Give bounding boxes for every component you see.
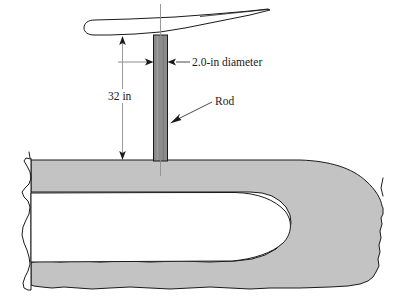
- break-stub-right: [381, 178, 383, 196]
- diagram-canvas: 2.0-in diameter 32 in Rod: [0, 0, 409, 304]
- diameter-arrow-right: [168, 59, 177, 66]
- length-callout: 32 in: [106, 36, 139, 160]
- rod-leader-arrow: [170, 114, 182, 124]
- diameter-label: 2.0-in diameter: [192, 56, 262, 68]
- duct-wall-cutaway: [22, 152, 383, 290]
- rod-callout: Rod: [170, 95, 234, 124]
- vane-outline: [84, 9, 270, 35]
- technical-diagram-figure: 2.0-in diameter 32 in Rod: [0, 0, 409, 304]
- vane-airfoil: [84, 9, 270, 35]
- rod-label: Rod: [215, 95, 234, 107]
- break-line-left: [22, 158, 31, 290]
- break-stub-top-left: [29, 152, 30, 158]
- rod-leader-line: [178, 102, 212, 119]
- length-label: 32 in: [108, 90, 132, 102]
- duct-inner-cavity: [31, 193, 290, 263]
- diameter-callout: 2.0-in diameter: [118, 56, 262, 68]
